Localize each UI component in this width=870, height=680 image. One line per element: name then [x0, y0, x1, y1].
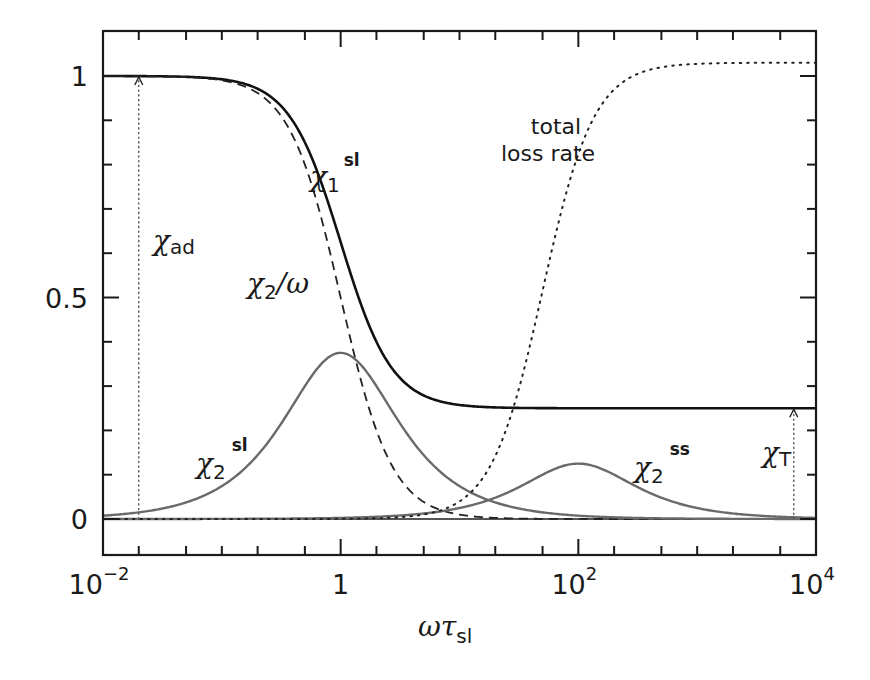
- label-chi2-omega: χ2/ω: [245, 267, 309, 304]
- x-tick-label: 1: [332, 569, 349, 600]
- chart-background: [0, 0, 870, 680]
- y-tick-label: 0.5: [45, 283, 88, 314]
- y-tick-label: 1: [71, 61, 88, 92]
- label-total-loss-line2: loss rate: [501, 141, 595, 166]
- label-total-loss-line1: total: [531, 114, 581, 139]
- chart-figure: 00.5110−21102104 χ1sl χ2/ω χ2sl χ2ss tot…: [0, 0, 870, 680]
- y-tick-label: 0: [71, 504, 88, 535]
